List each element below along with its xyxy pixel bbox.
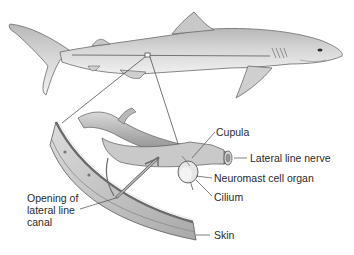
magnification-box [145,53,150,57]
label-skin: Skin [214,229,234,241]
label-cilium: Cilium [214,191,243,203]
pore [63,150,66,153]
shark-illustration [9,12,342,98]
pore [87,173,90,176]
shark-dorsal-fin [172,12,214,34]
lateral-line-diagram [0,0,354,255]
label-neuromast-cell-organ: Neuromast cell organ [214,172,314,184]
label-cupula: Cupula [216,126,249,138]
shark-body [60,28,342,74]
shark-eye [318,49,323,52]
label-opening-line1: Opening of [27,192,78,204]
skin-section [50,122,196,240]
label-opening-line2: lateral line [27,204,75,216]
cross-section-illustration [50,108,232,240]
shark-pectoral-fin [236,66,272,98]
label-lateral-line-nerve: Lateral line nerve [250,152,331,164]
label-opening-line3: canal [27,216,52,228]
